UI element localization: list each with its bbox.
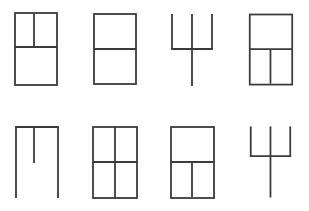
icon-open-frame-with-center-stem[interactable] bbox=[0, 106, 77, 211]
icon-window-upper-split-vertical[interactable] bbox=[0, 0, 77, 105]
icon-window-lower-split-vertical[interactable] bbox=[231, 0, 308, 105]
icon-trident-compact[interactable] bbox=[231, 106, 308, 211]
icon-window-lower-split-vertical-2[interactable] bbox=[154, 106, 231, 211]
icon-trident-tall[interactable] bbox=[154, 0, 231, 105]
icon-window-four-pane-grid[interactable] bbox=[77, 106, 154, 211]
icon-window-two-sash-horizontal[interactable] bbox=[77, 0, 154, 105]
icon-sheet bbox=[0, 0, 309, 211]
window-frame-rect bbox=[15, 13, 57, 85]
